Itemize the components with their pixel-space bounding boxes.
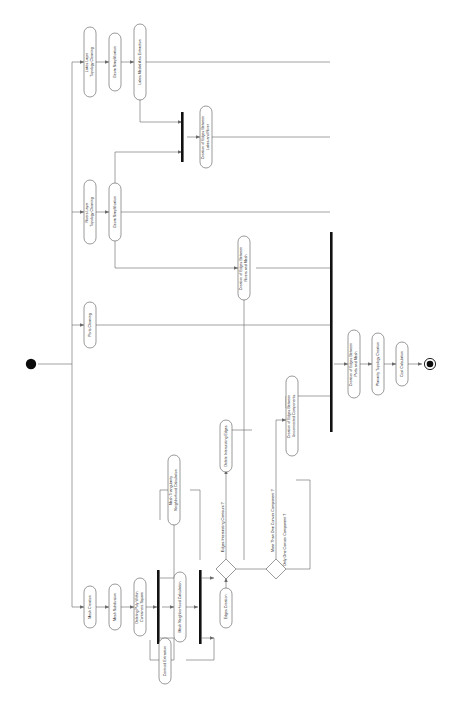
node-centroid-extraction[interactable]: Centroid Extraction xyxy=(159,638,171,684)
guard-labels: Edges Intersecting Contours ? More Than … xyxy=(221,490,287,566)
node-label-line: Neighborhood Calculation xyxy=(174,469,178,510)
node-mesh-neighborhood-calculation[interactable]: Mesh Neighborhood Calculation xyxy=(174,572,186,642)
node-lakes-medial-axis-extraction[interactable]: Lakes Medial Axis Extraction xyxy=(134,24,146,100)
node-label-line: Topology Cleaning xyxy=(90,197,94,227)
flow-convex-only-one xyxy=(286,480,310,569)
guard-edges-intersecting-contours: Edges Intersecting Contours ? xyxy=(221,502,225,552)
svg-text:Deleting Poly Within: Deleting Poly Within Containers Square xyxy=(135,590,143,623)
initial-node xyxy=(26,359,36,369)
node-creation-edges-ports-mesh[interactable]: Creation of Edges Between Ports and Mesh xyxy=(348,330,360,398)
node-label-line: Cost Calculation xyxy=(400,351,404,377)
node-mesh-creation[interactable]: Mesh Creation xyxy=(84,586,96,628)
bars xyxy=(157,112,333,644)
node-label-line: Containers Square xyxy=(140,592,144,622)
node-label-line: Lakes and River xyxy=(206,123,210,150)
activity-diagram-canvas: Lakes Layer Topology Cleaning Geom Simpl… xyxy=(0,0,458,712)
node-lakes-layer-topology-cleaning[interactable]: Lakes Layer Topology Cleaning xyxy=(84,27,96,97)
join-bar-main xyxy=(330,232,333,432)
flow-rivers-to-join xyxy=(115,152,182,200)
svg-text:Delete Intersecting Edges: Delete Intersecting Edges xyxy=(224,425,228,466)
node-label-line: Topology Cleaning xyxy=(90,47,94,77)
svg-text:Mesh Creation: Mesh Creation xyxy=(88,595,92,618)
node-mesh-triangularity-neighborhood-calculation[interactable]: Mesh Triangularity Neighborhood Calculat… xyxy=(168,455,180,525)
fork-bar-mesh xyxy=(157,570,160,644)
node-geom-simplification-lakes[interactable]: Geom Simplification xyxy=(109,33,121,91)
node-mesh-subdivision[interactable]: Mesh Subdivision xyxy=(109,584,121,630)
node-rivers-layer-topology-cleaning[interactable]: Rivers Layer Topology Cleaning xyxy=(84,180,96,244)
node-deleting-poly-within-containers-square[interactable]: Deleting Poly Within Containers Square xyxy=(134,578,146,636)
node-geom-simplification-rivers[interactable]: Geom Simplification xyxy=(109,183,121,241)
node-label-line: Ports Cleaning xyxy=(88,313,92,337)
decision-edges-intersecting xyxy=(216,559,236,579)
svg-text:Mesh Triangularity N: Mesh Triangularity Neighborhood Calculat… xyxy=(169,469,177,510)
node-ports-cleaning[interactable]: Ports Cleaning xyxy=(84,302,96,348)
node-planarity-topology-creation[interactable]: Planarity Topology Creation xyxy=(372,333,384,395)
svg-text:Mesh Subdivision: Mesh Subdivision xyxy=(113,593,117,621)
node-label-line: Rivers and Mesh xyxy=(244,255,248,282)
node-label-line: Mesh Creation xyxy=(88,595,92,618)
svg-text:Edges Creation: Edges Creation xyxy=(224,595,228,620)
node-label-line: Delete Intersecting Edges xyxy=(224,425,228,466)
flow-rivers-to-rivers-mesh xyxy=(115,224,238,268)
guard-only-one-convex-component: Only One Convex Component ? xyxy=(283,514,287,566)
flow-triangularity-left xyxy=(160,490,168,520)
flow-triangularity-right xyxy=(190,490,200,560)
join-bar-edges xyxy=(199,570,202,644)
node-label-line: Centroid Extraction xyxy=(163,646,167,677)
node-label-line: Mesh Subdivision xyxy=(113,593,117,621)
node-creation-edges-rivers-mesh[interactable]: Creation of Edges Between Rivers and Mes… xyxy=(238,236,250,300)
node-label-line: Geom Simplification xyxy=(113,46,117,78)
node-creation-edges-unconnected[interactable]: Creation of Edges Between Unconnected Co… xyxy=(286,376,298,456)
svg-text:Geom Simplification: Geom Simplification xyxy=(113,196,117,228)
node-label-line: Unconnected Components xyxy=(292,395,296,438)
svg-text:Planarity Topology Creation: Planarity Topology Creation xyxy=(376,342,380,386)
svg-text:Rivers Layer Topolog: Rivers Layer Topology Cleaning xyxy=(85,197,93,227)
svg-text:Cost Calculation: Cost Calculation xyxy=(400,351,404,377)
node-edges-creation[interactable]: Edges Creation xyxy=(220,588,232,628)
svg-text:Creation of Edges Between: Creation of Edges Between Unconnected Co… xyxy=(287,394,295,439)
svg-text:Centroid Extraction: Centroid Extraction xyxy=(163,646,167,677)
activity-nodes: Lakes Layer Topology Cleaning Geom Simpl… xyxy=(84,24,408,684)
node-label-line: Ports and Mesh xyxy=(354,351,358,376)
final-node-dot xyxy=(427,361,434,368)
node-label-line: Edges Creation xyxy=(224,595,228,620)
svg-text:Mesh Neighborhood Calculation: Mesh Neighborhood Calculation xyxy=(178,581,182,632)
svg-text:Ports Cleaning: Ports Cleaning xyxy=(88,313,92,337)
node-cost-calculation[interactable]: Cost Calculation xyxy=(396,342,408,386)
node-label-line: Lakes Medial Axis Extraction xyxy=(138,39,142,85)
node-label-line: Planarity Topology Creation xyxy=(376,342,380,386)
node-label-line: Mesh Neighborhood Calculation xyxy=(178,581,182,632)
activity-diagram-svg: Lakes Layer Topology Cleaning Geom Simpl… xyxy=(0,0,458,712)
join-bar-lakes-rivers xyxy=(181,112,184,162)
svg-text:Lakes Medial Axis Extraction: Lakes Medial Axis Extraction xyxy=(138,39,142,85)
node-delete-intersecting-edges[interactable]: Delete Intersecting Edges xyxy=(220,420,232,472)
node-label-line: Geom Simplification xyxy=(113,196,117,228)
guard-more-than-one-convex-component: More Than One Convex Component ? xyxy=(271,490,275,552)
svg-text:Geom Simplification: Geom Simplification xyxy=(113,46,117,78)
node-creation-edges-lakes-river[interactable]: Creation of Edges Between Lakes and Rive… xyxy=(200,106,212,168)
